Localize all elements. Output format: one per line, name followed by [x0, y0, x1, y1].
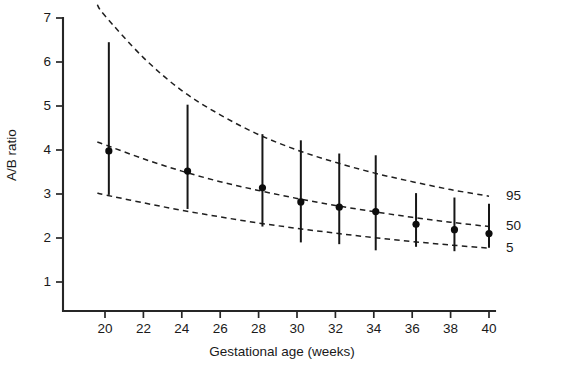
- data-point-markers-group: [105, 147, 492, 237]
- data-point-marker: [412, 221, 419, 228]
- axis-lines: [63, 18, 495, 311]
- x-tick-label: 28: [251, 321, 266, 336]
- x-axis-tick-labels: 2022242628303234363840: [97, 321, 496, 336]
- data-point-marker: [451, 226, 458, 233]
- y-tick-label: 7: [43, 10, 51, 25]
- percentile-labels: 95505: [506, 188, 521, 255]
- x-tick-label: 26: [213, 321, 228, 336]
- data-point-marker: [105, 147, 112, 154]
- data-point-marker: [184, 168, 191, 175]
- y-tick-label: 1: [43, 274, 51, 289]
- x-tick-label: 34: [366, 321, 382, 336]
- y-tick-label: 2: [43, 230, 51, 245]
- x-tick-label: 24: [174, 321, 190, 336]
- x-tick-label: 40: [481, 321, 496, 336]
- x-axis-title: Gestational age (weeks): [209, 344, 355, 359]
- data-point-marker: [297, 198, 304, 205]
- x-tick-label: 22: [136, 321, 151, 336]
- data-point-marker: [259, 184, 266, 191]
- percentile-curve-50: [97, 142, 489, 226]
- y-tick-label: 6: [43, 54, 51, 69]
- percentile-curves-group: [97, 5, 489, 248]
- x-tick-label: 36: [405, 321, 420, 336]
- ab-ratio-vs-gestational-age-chart: 1234567 2022242628303234363840 95505 Ges…: [0, 0, 564, 374]
- y-tick-label: 5: [43, 98, 51, 113]
- data-point-marker: [372, 208, 379, 215]
- data-point-marker: [336, 204, 343, 211]
- chart-container: 1234567 2022242628303234363840 95505 Ges…: [0, 0, 564, 374]
- y-axis-tick-labels: 1234567: [43, 10, 51, 289]
- y-tick-label: 4: [43, 142, 51, 157]
- x-tick-label: 38: [443, 321, 458, 336]
- percentile-curve-5: [97, 193, 489, 248]
- percentile-label-95: 95: [506, 188, 521, 203]
- axes-group: [56, 18, 495, 318]
- percentile-curve-95: [97, 5, 489, 196]
- percentile-label-5: 5: [506, 240, 514, 255]
- y-axis-title: A/B ratio: [4, 129, 19, 181]
- y-tick-label: 3: [43, 186, 51, 201]
- x-tick-label: 32: [328, 321, 343, 336]
- data-point-marker: [485, 230, 492, 237]
- x-tick-label: 30: [289, 321, 304, 336]
- percentile-label-50: 50: [506, 218, 521, 233]
- x-tick-label: 20: [97, 321, 112, 336]
